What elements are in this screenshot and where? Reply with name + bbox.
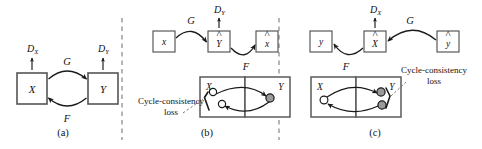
panel-b-sample-y-generated [266,94,274,102]
panel-a-generator-g-arrow [49,71,87,79]
panel-b-input-x-label: x [161,37,167,47]
panel-b-generator-g-arrow [176,31,207,42]
panel-c-loss-label-line2: loss [427,76,442,86]
panel-b-caption: (b) [201,127,214,139]
panel-a-domain-x-label: X [28,83,37,95]
panel-c-generator-f-arrow [334,44,363,55]
panel-c-caption: (c) [369,127,381,139]
panel-b-loss-label-line2: loss [164,107,179,117]
panel-b-generated-y-hat-mark: ^ [216,28,222,40]
cyclegan-figure: X Y G F DX DY (a) x ^ [0,0,482,149]
panel-b-reconstructed-x-label: x [264,39,270,49]
panel-b-generator-f-label: F [242,61,250,72]
panel-c-domain-box-x-label: X [316,82,324,92]
panel-a-generator-f-arrow [49,98,87,106]
panel-b-loss-label-line1: Cycle-consistency [138,96,204,106]
panel-b: x ^ Y ^ x G F DY X Y [138,4,290,139]
panel-b-reconstructed-x-hat-mark: ^ [264,28,270,40]
panel-c-input-y-hat-mark: ^ [445,28,451,40]
panel-c-sample-x-generated [320,96,328,104]
panel-c-sample-y-reconstructed [378,101,386,109]
panel-c-loss-label-line1: Cycle-consistency [401,65,467,75]
panel-a-discriminator-y-label: DY [97,43,110,55]
panel-c-generator-g-arrow [388,30,436,41]
panel-c-reconstructed-y-label: y [318,37,324,47]
panel-b-generator-f-arrow [231,45,255,55]
panel-b-discriminator-y-label: DY [213,4,226,16]
panel-c-generator-f-label: F [342,61,350,72]
panel-c-sample-y-source [377,88,385,96]
panel-a-caption: (a) [57,127,69,139]
panel-c-input-y-label: y [445,39,451,49]
panel-b-sample-x-source [209,88,216,95]
panel-c: y ^ X ^ y G F DX X Y [310,4,467,139]
panel-c-generated-x-hat-mark: ^ [372,28,378,40]
panel-a-generator-f-label: F [63,113,71,124]
panel-c-generated-x-label: X [371,39,379,49]
panel-c-generator-g-label: G [406,15,414,26]
panel-a-discriminator-x-label: DX [26,43,39,55]
panel-b-sample-x-reconstructed [218,100,225,107]
panel-a: X Y G F DX DY (a) [17,43,118,139]
panel-a-generator-g-label: G [63,56,71,67]
panel-c-discriminator-x-label: DX [369,4,382,16]
panel-b-generator-g-label: G [187,15,195,26]
